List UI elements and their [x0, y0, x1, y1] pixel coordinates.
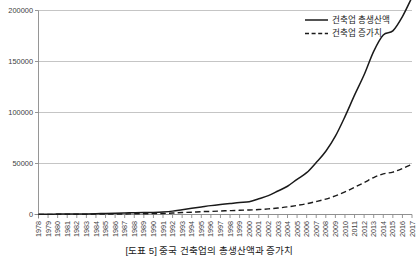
x-tick-label: 2011: [350, 221, 359, 236]
x-tick-label: 1984: [92, 221, 101, 237]
x-axis-tick-labels: 1978197919801981198219831984198519861987…: [34, 221, 417, 237]
y-tick-label: 50000: [12, 159, 33, 168]
x-tick-label: 1998: [226, 221, 235, 237]
x-tick-label: 2001: [254, 221, 263, 237]
x-tick-label: 1992: [168, 221, 177, 237]
x-tick-label: 2005: [293, 221, 302, 237]
x-tick-label: 1982: [72, 221, 81, 237]
x-tick-label: 2012: [360, 221, 369, 237]
x-tick-label: 1978: [34, 221, 43, 237]
chart-legend: 건축업 총생산액건축업 증가치: [305, 14, 390, 39]
axis-lines: [35, 11, 413, 219]
x-tick-label: 2002: [264, 221, 273, 237]
x-tick-label: 1980: [53, 221, 62, 237]
legend-label-2: 건축업 증가치: [332, 28, 382, 38]
x-tick-label: 2000: [245, 221, 254, 237]
x-tick-label: 2015: [388, 221, 397, 237]
y-tick-label: 100000: [8, 108, 33, 117]
series-line-2: [39, 164, 413, 214]
y-tick-label: 200000: [8, 6, 33, 15]
y-tick-label: 0: [29, 210, 33, 219]
gridlines: [39, 11, 413, 215]
x-tick-label: 1996: [206, 221, 215, 237]
y-axis-tick-labels: 050000100000150000200000: [8, 6, 33, 219]
y-axis-ticks: [35, 11, 39, 215]
legend-label-1: 건축업 총생산액: [332, 14, 390, 25]
x-tick-label: 2013: [369, 221, 378, 237]
x-tick-label: 1987: [120, 221, 129, 237]
x-tick-label: 1989: [139, 221, 148, 237]
x-tick-label: 1988: [130, 221, 139, 237]
x-tick-label: 2016: [398, 221, 407, 237]
x-tick-label: 1995: [197, 221, 206, 237]
x-tick-label: 1986: [111, 221, 120, 237]
x-tick-label: 2004: [283, 221, 292, 237]
x-tick-label: 1993: [178, 221, 187, 237]
x-tick-label: 1985: [101, 221, 110, 237]
x-tick-label: 2003: [274, 221, 283, 237]
x-tick-label: 2008: [321, 221, 330, 237]
chart-figure: 050000100000150000200000 197819791980198…: [0, 0, 419, 264]
x-tick-label: 1990: [149, 221, 158, 237]
x-tick-label: 1994: [187, 221, 196, 237]
x-axis-ticks: [39, 215, 413, 219]
x-tick-label: 2006: [302, 221, 311, 237]
x-tick-label: 1997: [216, 221, 225, 237]
x-tick-label: 2014: [379, 221, 388, 237]
x-tick-label: 2010: [341, 221, 350, 237]
x-tick-label: 1979: [44, 221, 53, 237]
line-chart: 050000100000150000200000 197819791980198…: [0, 0, 419, 264]
x-tick-label: 1981: [63, 221, 72, 237]
x-tick-label: 1999: [235, 221, 244, 237]
x-tick-label: 2017: [408, 221, 417, 237]
y-tick-label: 150000: [8, 57, 33, 66]
figure-caption: [도표 5] 중국 건축업의 총생산액과 증가치: [0, 243, 419, 257]
x-tick-label: 1991: [159, 221, 168, 237]
x-tick-label: 2007: [312, 221, 321, 237]
x-tick-label: 2009: [331, 221, 340, 237]
x-tick-label: 1983: [82, 221, 91, 237]
